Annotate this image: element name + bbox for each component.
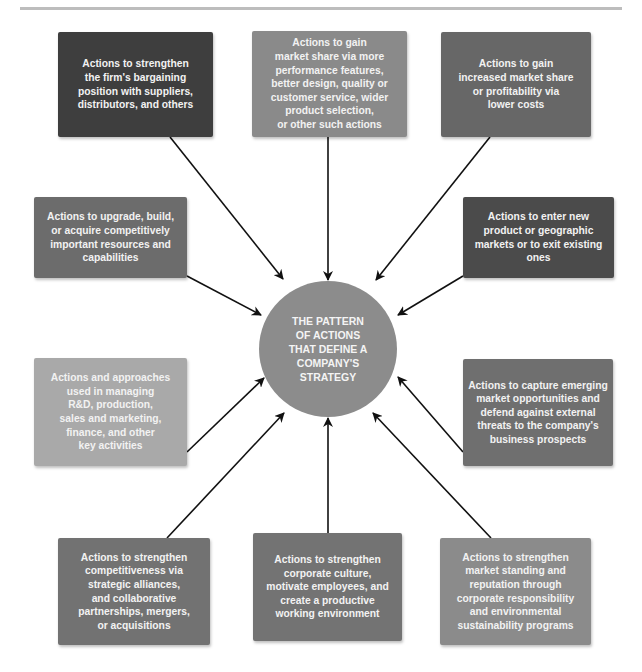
arrow-resources <box>187 276 261 315</box>
node-functional: Actions and approaches used in managing … <box>34 358 187 466</box>
node-markets: Actions to enter new product or geograph… <box>463 197 614 278</box>
center-label: THE PATTERN OF ACTIONS THAT DEFINE A COM… <box>289 314 368 384</box>
node-label: Actions to gain increased market share o… <box>458 57 573 111</box>
node-label: Actions to strengthen corporate culture,… <box>266 553 388 621</box>
node-label: Actions to strengthen market standing an… <box>457 551 574 633</box>
node-label: Actions to gain market share via more pe… <box>271 36 388 131</box>
node-differentiation: Actions to gain market share via more pe… <box>252 31 407 137</box>
node-label: Actions to strengthen the firm's bargain… <box>78 57 194 111</box>
node-reputation: Actions to strengthen market standing an… <box>440 538 591 645</box>
node-alliances: Actions to strengthen competitiveness vi… <box>58 538 210 645</box>
center-strategy-circle: THE PATTERN OF ACTIONS THAT DEFINE A COM… <box>259 281 397 417</box>
node-label: Actions to strengthen competitiveness vi… <box>78 551 190 633</box>
node-resources: Actions to upgrade, build, or acquire co… <box>34 197 187 278</box>
node-bargaining: Actions to strengthen the firm's bargain… <box>58 32 213 137</box>
node-label: Actions to capture emerging market oppor… <box>468 379 608 447</box>
arrow-markets <box>398 276 463 315</box>
arrow-functional <box>187 378 264 452</box>
node-opportunities: Actions to capture emerging market oppor… <box>463 359 613 466</box>
node-low-cost: Actions to gain increased market share o… <box>441 32 591 137</box>
arrow-opportunities <box>398 377 463 452</box>
node-label: Actions to enter new product or geograph… <box>475 210 603 264</box>
node-label: Actions to upgrade, build, or acquire co… <box>47 210 174 264</box>
node-label: Actions and approaches used in managing … <box>51 371 171 453</box>
node-culture: Actions to strengthen corporate culture,… <box>253 533 402 641</box>
